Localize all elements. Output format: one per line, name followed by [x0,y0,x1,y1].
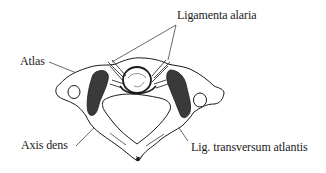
label-ligamenta-alaria: Ligamenta alaria [177,9,256,21]
transverse-foramen-left [68,86,80,99]
dens-of-axis [123,67,151,93]
atlas-diagram: Ligamenta alaria Atlas Axis dens Lig. tr… [0,0,326,173]
label-axis-dens: Axis dens [21,139,68,151]
posterior-tubercle [136,157,140,161]
label-atlas: Atlas [20,55,45,67]
leader-ligamenta-alaria-right [168,25,176,60]
label-lig-transversum-atlantis: Lig. transversum atlantis [191,141,307,153]
leader-ligamenta-alaria-left [112,25,176,62]
transverse-foramen-right [194,93,207,107]
